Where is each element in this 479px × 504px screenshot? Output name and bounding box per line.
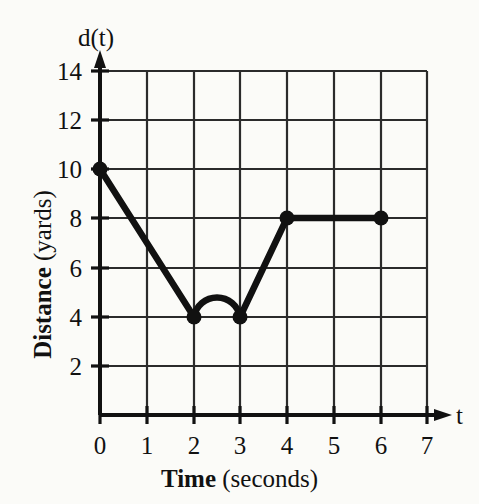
y-axis-title-units: (yards): [29, 190, 56, 261]
x-axis-title: Time (seconds): [0, 466, 479, 491]
data-point: [374, 211, 389, 226]
data-point: [187, 310, 202, 325]
x-axis-title-strong: Time: [161, 465, 216, 492]
data-point: [233, 310, 248, 325]
data-point: [280, 211, 295, 226]
x-tick-label-7: 7: [421, 433, 434, 458]
x-tick-label-3: 3: [234, 433, 247, 458]
y-axis: [94, 50, 106, 415]
x-tick-label-6: 6: [375, 433, 388, 458]
y-axis-title-strong: Distance: [29, 267, 56, 359]
x-axis-title-units: (seconds): [222, 465, 318, 492]
y-axis-variable-label: d(t): [78, 25, 114, 50]
x-axis-variable-label: t: [456, 403, 463, 428]
y-tick-label-12: 12: [36, 108, 82, 133]
x-tick-label-5: 5: [328, 433, 341, 458]
x-tick-label-0: 0: [94, 433, 107, 458]
y-axis-title: Distance (yards): [30, 160, 55, 390]
x-axis: [100, 409, 452, 421]
data-point: [93, 162, 108, 177]
x-tick-label-2: 2: [188, 433, 201, 458]
distance-time-graph-figure: d(t) t 14 12 10 8 6 4 2 0 1 2 3 4 5 6 7 …: [0, 0, 479, 504]
y-tick-label-14: 14: [36, 59, 82, 84]
x-tick-label-4: 4: [281, 433, 294, 458]
x-tick-label-1: 1: [141, 433, 154, 458]
